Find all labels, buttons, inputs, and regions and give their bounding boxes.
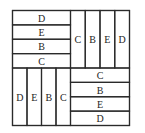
strip-label: E xyxy=(38,27,44,38)
strip-label: B xyxy=(89,34,96,45)
strip-label: E xyxy=(104,34,110,45)
diagram-cells: DEBCCBEDDEBCCBED xyxy=(13,11,130,126)
strip-label: D xyxy=(38,13,45,24)
strip-label: B xyxy=(38,41,45,52)
quadrant-bottom-right: CBED xyxy=(71,68,130,126)
quadrant-top-left: DEBC xyxy=(13,11,71,69)
strip-label: C xyxy=(97,70,104,81)
strip-label: E xyxy=(97,99,103,110)
strip-label: C xyxy=(75,34,82,45)
strip-label: C xyxy=(38,56,45,67)
strip-label: D xyxy=(16,92,23,103)
strip-label: E xyxy=(31,92,37,103)
strip-label: D xyxy=(119,34,126,45)
strip-label: C xyxy=(60,92,67,103)
strip-label: B xyxy=(45,92,52,103)
strip-label: B xyxy=(97,85,104,96)
quadrant-top-right: CBED xyxy=(71,11,130,69)
strip-label: D xyxy=(96,113,103,124)
pinwheel-diagram: DEBCCBEDDEBCCBED xyxy=(0,0,145,133)
quadrant-bottom-left: DEBC xyxy=(13,68,71,126)
